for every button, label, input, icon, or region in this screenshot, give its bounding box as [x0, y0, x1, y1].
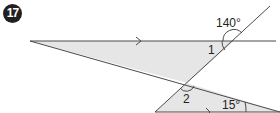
shaded-region-lower: [155, 83, 280, 112]
geometry-diagram: 140° 1 2 15°: [0, 0, 280, 113]
angle-label-140: 140°: [216, 16, 241, 30]
angle-label-1: 1: [208, 43, 215, 57]
angle-label-2: 2: [183, 92, 190, 106]
angle-label-15: 15°: [222, 98, 240, 112]
angle-arc-140: [223, 30, 242, 41]
shaded-region-upper: [30, 41, 234, 83]
